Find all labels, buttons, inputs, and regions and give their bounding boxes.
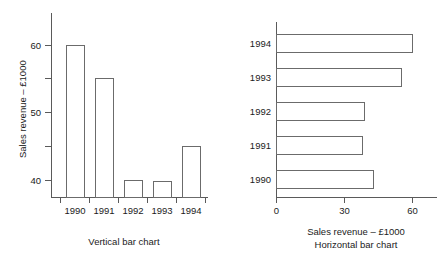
category-label-1990: 1990 [64, 205, 85, 216]
figure-container: Sales revenue – £1000 60 50 40 [0, 0, 448, 272]
horizontal-bar-chart: 0 30 60 1994 1993 1992 1991 1990 S [250, 22, 437, 250]
two-bar-charts-figure: Sales revenue – £1000 60 50 40 [0, 0, 448, 272]
bar-1994[interactable] [277, 35, 413, 53]
category-label-1994: 1994 [250, 38, 271, 49]
vertical-chart-caption: Vertical bar chart [88, 236, 160, 247]
vertical-chart-bars [67, 46, 201, 198]
vertical-chart-y-ticks: 60 50 40 [30, 40, 51, 186]
x-tick-label-30: 30 [339, 205, 350, 216]
x-tick-label-0: 0 [274, 205, 279, 216]
y-tick-label-50: 50 [30, 107, 41, 118]
horizontal-chart-x-axis-title: Sales revenue – £1000 [307, 226, 405, 237]
bar-1991[interactable] [96, 79, 114, 198]
horizontal-chart-caption: Horizontal bar chart [315, 239, 398, 250]
bar-1993[interactable] [154, 182, 172, 198]
category-label-1992: 1992 [250, 106, 271, 117]
category-label-1993: 1993 [151, 205, 172, 216]
category-label-1991: 1991 [93, 205, 114, 216]
bar-1990[interactable] [67, 46, 85, 198]
category-label-1992: 1992 [122, 205, 143, 216]
horizontal-chart-bars [277, 35, 413, 189]
category-label-1990: 1990 [250, 174, 271, 185]
horizontal-chart-category-labels: 1994 1993 1992 1991 1990 [250, 38, 271, 185]
x-tick-label-60: 60 [407, 205, 418, 216]
bar-1991[interactable] [277, 137, 363, 155]
category-label-1993: 1993 [250, 72, 271, 83]
category-label-1994: 1994 [180, 205, 201, 216]
vertical-chart-category-labels: 1990 1991 1992 1993 1994 [64, 205, 201, 216]
vertical-chart-x-ticks [61, 198, 206, 204]
y-tick-label-60: 60 [30, 40, 41, 51]
vertical-bar-chart: Sales revenue – £1000 60 50 40 [17, 13, 208, 247]
bar-1992[interactable] [125, 181, 143, 198]
bar-1992[interactable] [277, 103, 365, 121]
horizontal-chart-x-ticks: 0 30 60 [274, 198, 418, 217]
bar-1990[interactable] [277, 171, 374, 189]
category-label-1991: 1991 [250, 140, 271, 151]
y-tick-label-40: 40 [30, 175, 41, 186]
vertical-chart-y-axis-title: Sales revenue – £1000 [17, 60, 28, 158]
bar-1994[interactable] [183, 147, 201, 198]
bar-1993[interactable] [277, 69, 402, 87]
